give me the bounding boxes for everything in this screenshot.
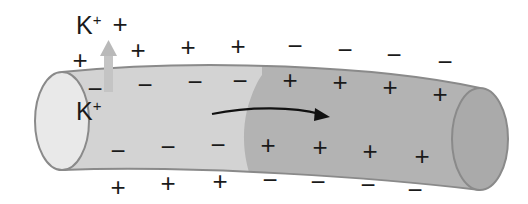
positive-charge-inside-bottom: + — [312, 132, 327, 162]
negative-charge-inside-top: − — [137, 70, 152, 100]
positive-charge-inside-bottom: + — [362, 136, 377, 166]
negative-charge-inside-bottom: − — [110, 136, 125, 166]
positive-charge-inside-top: + — [382, 72, 397, 102]
positive-charge-outside-top: + — [72, 45, 87, 75]
positive-charge-inside-top: + — [282, 65, 297, 95]
negative-charge-outside-bottom: − — [262, 165, 277, 195]
negative-charge-outside-top: − — [437, 47, 452, 77]
negative-charge-outside-bottom: − — [310, 167, 325, 197]
positive-charge-outside-top: + — [230, 31, 245, 61]
negative-charge-inside-top: − — [187, 67, 202, 97]
negative-charge-outside-bottom: − — [407, 175, 422, 204]
positive-charge-outside-top: + — [180, 32, 195, 62]
negative-charge-outside-top: − — [287, 31, 302, 61]
positive-charge-outside-bottom: + — [110, 172, 125, 202]
negative-charge-outside-bottom: − — [360, 170, 375, 200]
negative-charge-outside-top: − — [386, 40, 401, 70]
positive-charge-outside-bottom: + — [160, 168, 175, 198]
negative-charge-inside-top: − — [232, 66, 247, 96]
negative-charge-inside-bottom: − — [160, 132, 175, 162]
positive-charge-outside-top: + — [130, 35, 145, 65]
axon-depolarization-diagram: K+ K+ +++++−−−−−−−−++++−−−+++++++−−−− — [0, 0, 528, 204]
positive-charge-inside-bottom: + — [260, 130, 275, 160]
positive-charge-inside-bottom: + — [414, 141, 429, 171]
positive-charge-outside-top: + — [112, 9, 127, 39]
negative-charge-inside-top: − — [87, 74, 102, 104]
right-end-cap — [452, 88, 508, 190]
k-ion-outside-label: K+ — [76, 11, 102, 39]
negative-charge-outside-top: − — [337, 35, 352, 65]
positive-charge-inside-top: + — [332, 67, 347, 97]
negative-charge-inside-bottom: − — [210, 130, 225, 160]
positive-charge-outside-bottom: + — [212, 166, 227, 196]
positive-charge-inside-top: + — [432, 79, 447, 109]
